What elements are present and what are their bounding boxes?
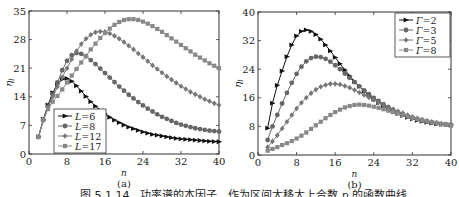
data-point-marker bbox=[304, 27, 309, 32]
data-point-marker bbox=[348, 104, 352, 108]
data-point-marker bbox=[401, 113, 405, 117]
data-point-marker bbox=[425, 119, 429, 123]
data-point-marker bbox=[164, 116, 169, 121]
legend: L=6L=8L=12L=17 bbox=[54, 109, 106, 153]
data-point-marker bbox=[295, 136, 299, 140]
data-point-marker bbox=[318, 55, 323, 60]
x-tick-label: 32 bbox=[175, 156, 188, 167]
data-point-marker bbox=[117, 20, 121, 24]
series-3 bbox=[265, 54, 453, 142]
data-point-marker bbox=[333, 55, 338, 60]
data-point-marker bbox=[314, 87, 319, 93]
data-point-marker bbox=[41, 118, 45, 122]
data-point-marker bbox=[357, 84, 362, 89]
data-point-marker bbox=[367, 104, 371, 108]
data-point-marker bbox=[112, 23, 116, 27]
data-point-marker bbox=[141, 130, 146, 135]
legend-entry-label: Γ=8 bbox=[415, 45, 437, 56]
x-tick-label: 0 bbox=[26, 156, 32, 167]
y-tick-label: 24 bbox=[242, 64, 255, 75]
data-point-marker bbox=[299, 29, 304, 34]
data-point-marker bbox=[352, 87, 357, 93]
data-point-marker bbox=[131, 17, 135, 21]
data-point-marker bbox=[174, 80, 179, 86]
x-axis-label: n bbox=[352, 169, 358, 179]
data-point-marker bbox=[146, 22, 150, 26]
data-point-marker bbox=[338, 67, 343, 72]
data-point-marker bbox=[207, 128, 212, 133]
data-point-marker bbox=[122, 88, 127, 93]
legend-entry-label: L=17 bbox=[74, 141, 101, 152]
data-point-marker bbox=[36, 135, 40, 139]
data-point-marker bbox=[193, 126, 198, 131]
data-point-marker bbox=[126, 43, 131, 49]
data-point-marker bbox=[377, 106, 381, 110]
data-point-marker bbox=[207, 139, 212, 144]
data-point-marker bbox=[136, 128, 141, 133]
data-point-marker bbox=[145, 131, 150, 136]
data-point-marker bbox=[328, 59, 333, 64]
data-point-marker bbox=[275, 145, 279, 149]
data-point-marker bbox=[169, 119, 174, 124]
data-point-marker bbox=[198, 55, 202, 59]
data-point-marker bbox=[319, 120, 323, 124]
data-point-marker bbox=[265, 138, 270, 143]
data-point-marker bbox=[169, 135, 174, 140]
data-point-marker bbox=[65, 80, 69, 84]
data-point-marker bbox=[84, 54, 88, 58]
data-point-marker bbox=[169, 77, 174, 83]
data-point-marker bbox=[328, 49, 333, 54]
series-8 bbox=[266, 102, 454, 152]
data-point-marker bbox=[108, 26, 112, 30]
data-point-marker bbox=[179, 136, 184, 141]
data-point-marker bbox=[333, 110, 337, 114]
data-point-marker bbox=[160, 70, 165, 76]
data-point-marker bbox=[342, 71, 347, 76]
data-point-marker bbox=[396, 111, 400, 115]
data-point-marker bbox=[304, 130, 308, 134]
data-point-marker bbox=[136, 18, 140, 22]
data-point-marker bbox=[328, 81, 333, 87]
y-tick-label: 28 bbox=[13, 34, 26, 45]
data-point-marker bbox=[198, 138, 203, 143]
data-point-marker bbox=[122, 39, 127, 45]
data-point-marker bbox=[65, 58, 70, 63]
data-point-marker bbox=[280, 143, 284, 147]
data-point-marker bbox=[202, 139, 207, 144]
data-point-marker bbox=[304, 59, 309, 64]
data-point-marker bbox=[127, 17, 131, 21]
data-point-marker bbox=[174, 136, 179, 141]
y-tick-label: 32 bbox=[242, 35, 255, 46]
data-point-marker bbox=[117, 84, 122, 89]
data-point-marker bbox=[60, 68, 65, 73]
data-point-marker bbox=[60, 87, 64, 91]
data-point-marker bbox=[145, 106, 150, 111]
data-point-marker bbox=[285, 90, 290, 95]
data-point-marker bbox=[165, 33, 169, 37]
data-point-marker bbox=[179, 83, 184, 89]
data-point-marker bbox=[79, 52, 84, 57]
data-point-marker bbox=[357, 90, 362, 96]
data-point-marker bbox=[183, 86, 188, 92]
data-point-marker bbox=[103, 71, 108, 76]
data-point-marker bbox=[381, 107, 385, 111]
panel-b-chart: 08162432400816243240nηl(b)Γ=2Γ=3Γ=5Γ=8 bbox=[232, 7, 457, 191]
data-point-marker bbox=[299, 134, 303, 138]
data-point-marker bbox=[318, 37, 323, 42]
data-point-marker bbox=[55, 94, 59, 98]
data-point-marker bbox=[174, 121, 179, 126]
data-point-marker bbox=[164, 134, 169, 139]
data-point-marker bbox=[323, 116, 327, 120]
data-point-marker bbox=[188, 137, 193, 142]
data-point-marker bbox=[318, 84, 323, 90]
data-point-marker bbox=[160, 134, 165, 139]
data-point-marker bbox=[372, 105, 376, 109]
data-point-marker bbox=[294, 71, 299, 76]
data-point-marker bbox=[352, 80, 357, 85]
data-point-marker bbox=[391, 110, 395, 114]
data-point-marker bbox=[169, 36, 173, 40]
y-tick-label: 14 bbox=[13, 91, 26, 102]
x-tick-label: 40 bbox=[213, 156, 226, 167]
data-point-marker bbox=[155, 27, 159, 31]
data-point-marker bbox=[212, 129, 217, 134]
